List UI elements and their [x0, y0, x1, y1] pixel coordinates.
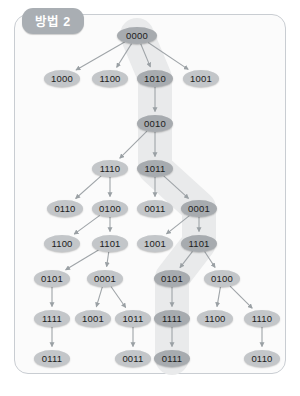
tree-node: 1110: [92, 160, 128, 177]
tree-edge: [66, 250, 99, 270]
tree-node: 0011: [137, 200, 173, 217]
tree-node: 0001: [181, 200, 217, 217]
tree-edge: [96, 287, 102, 307]
tree-node: 1111: [34, 310, 70, 327]
tree-node: 0101: [34, 270, 70, 287]
tree-node: 1011: [137, 160, 173, 177]
tree-node: 0110: [244, 350, 280, 367]
tree-node: 1101: [181, 235, 217, 252]
tree-node: 0101: [154, 270, 190, 287]
tree-edge: [107, 252, 109, 267]
tree-node: 0000: [117, 27, 157, 44]
tree-node: 1001: [183, 70, 219, 87]
tree-node: 1110: [244, 310, 280, 327]
tree-node: 1100: [197, 310, 233, 327]
tree-diagram-canvas: [0, 0, 300, 396]
tree-node: 1111: [154, 310, 190, 327]
tree-edge: [230, 286, 252, 308]
tree-node: 0111: [154, 350, 190, 367]
tree-edge: [111, 286, 126, 307]
tree-node: 1011: [115, 310, 151, 327]
tree-node: 0111: [34, 350, 70, 367]
tree-node: 1010: [137, 70, 173, 87]
tree-edge: [74, 215, 100, 234]
tree-node: 0110: [47, 200, 83, 217]
tree-node: 0010: [137, 115, 173, 132]
tree-node: 0001: [87, 270, 123, 287]
method-badge: 방법 2: [22, 8, 84, 34]
tree-node: 1000: [44, 70, 80, 87]
tree-edge: [76, 176, 101, 199]
tree-node: 1100: [44, 235, 80, 252]
tree-node: 0100: [204, 270, 240, 287]
tree-node: 1001: [75, 310, 111, 327]
tree-node: 0011: [115, 350, 151, 367]
tree-edge: [217, 287, 220, 307]
tree-node: 0100: [92, 200, 128, 217]
tree-node: 1001: [137, 235, 173, 252]
tree-node: 1100: [92, 70, 128, 87]
tree-node: 1101: [92, 235, 128, 252]
